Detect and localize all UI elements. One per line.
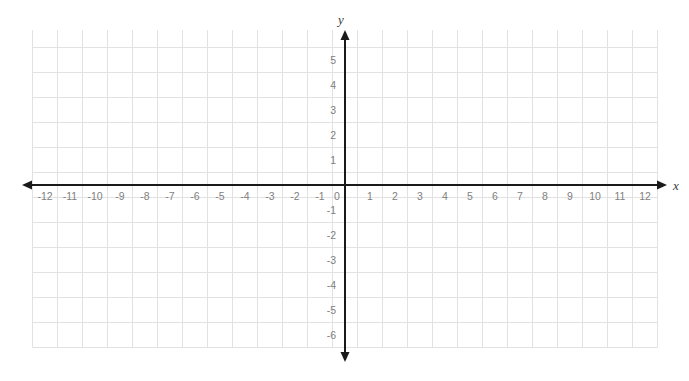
y-axis-top-arrowhead: [341, 30, 350, 40]
x-tick-label: -6: [190, 190, 199, 202]
x-tick-label: 7: [517, 190, 523, 202]
y-tick-label: -2: [327, 229, 336, 241]
y-tick-label: 4: [330, 79, 336, 91]
x-tick-label: -7: [165, 190, 174, 202]
y-tick-label: -5: [327, 304, 336, 316]
y-axis-label: y: [336, 12, 344, 27]
x-tick-label: -10: [87, 190, 102, 202]
y-tick-label: 5: [330, 54, 336, 66]
x-tick-label: 8: [542, 190, 548, 202]
x-axis-right-arrowhead: [657, 181, 667, 190]
y-tick-label: -3: [327, 254, 336, 266]
x-tick-label: 5: [467, 190, 473, 202]
x-axis-label: x: [672, 178, 679, 193]
x-tick-label: -4: [240, 190, 249, 202]
y-tick-label: -4: [327, 279, 336, 291]
x-tick-label: 9: [567, 190, 573, 202]
x-tick-label: 12: [639, 190, 651, 202]
x-tick-label: -11: [63, 190, 78, 202]
y-tick-label: -1: [327, 204, 336, 216]
x-tick-label: 6: [492, 190, 498, 202]
y-tick-label: -6: [327, 329, 336, 341]
x-tick-label: -8: [140, 190, 149, 202]
x-tick-label: -9: [115, 190, 124, 202]
x-tick-label: -5: [215, 190, 224, 202]
x-tick-label: -2: [290, 190, 299, 202]
x-tick-label: 3: [417, 190, 423, 202]
x-tick-label: 10: [589, 190, 601, 202]
y-tick-label: 2: [330, 129, 336, 141]
x-tick-label: 2: [392, 190, 398, 202]
coordinate-plane-svg: -12-11-10-9-8-7-6-5-4-3-2-10123456789101…: [0, 0, 689, 381]
x-tick-label: -12: [37, 190, 52, 202]
x-tick-label: 0: [334, 190, 340, 202]
y-axis-bottom-arrowhead: [341, 352, 350, 362]
x-axis-left-arrowhead: [22, 181, 32, 190]
x-tick-label: 11: [615, 190, 626, 202]
coordinate-plane-figure: -12-11-10-9-8-7-6-5-4-3-2-10123456789101…: [0, 0, 689, 381]
x-tick-label: -3: [265, 190, 274, 202]
x-tick-label: -1: [315, 190, 324, 202]
x-tick-label: 4: [442, 190, 448, 202]
x-tick-label: 1: [367, 190, 373, 202]
y-tick-label: 1: [330, 154, 336, 166]
y-tick-label: 3: [330, 104, 336, 116]
